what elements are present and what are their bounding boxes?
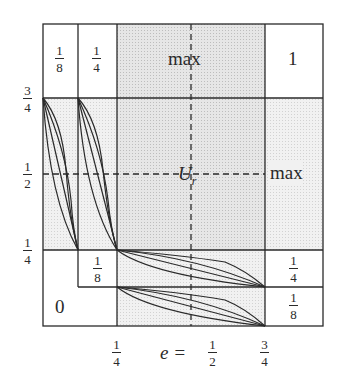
den: 8 [290,308,297,321]
center-label-main: U [178,163,192,184]
den: 4 [24,253,31,266]
den: 2 [24,177,31,190]
x-tick-3-4: 34 [260,338,269,368]
num: 1 [24,160,31,173]
center-label-sub: r [192,174,197,188]
num: 1 [113,338,120,351]
num: 1 [290,291,297,304]
y-tick-3-4: 34 [23,84,32,114]
den: 4 [261,355,268,368]
cell-top-right: 1 [288,48,298,70]
den: 4 [113,355,120,368]
num: 1 [24,236,31,249]
y-tick-1-2: 12 [23,160,32,190]
num: 1 [209,338,216,351]
y-tick-1-4: 14 [23,236,32,266]
num: 3 [261,338,268,351]
cell-left-bottom: 0 [55,296,65,318]
num: 1 [94,254,101,267]
den: 4 [24,101,31,114]
cell-left-lower-inner: 18 [93,254,102,284]
cell-top-col1: 18 [55,44,64,74]
den: 4 [93,61,100,74]
num: 1 [56,44,63,57]
num: 3 [24,84,31,97]
x-axis-label: e = [160,342,186,364]
den: 8 [94,271,101,284]
num: 1 [93,44,100,57]
num: 1 [290,254,297,267]
cell-right-middle: max [270,162,303,184]
cell-right-lower2: 18 [289,291,298,321]
den: 2 [209,355,216,368]
den: 4 [290,271,297,284]
cell-right-lower1: 14 [289,254,298,284]
x-tick-1-2: 12 [208,338,217,368]
den: 8 [56,61,63,74]
center-label: Ur [178,163,196,189]
cell-top-middle: max [168,48,201,70]
cell-top-col2: 14 [92,44,101,74]
x-tick-1-4: 14 [112,338,121,368]
